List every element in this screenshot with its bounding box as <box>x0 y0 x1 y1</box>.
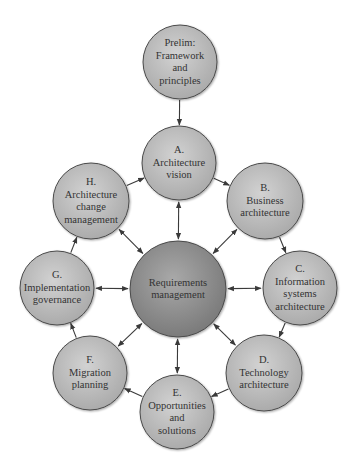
node-h-circle <box>53 163 129 239</box>
arrow-h-to-a <box>127 178 144 185</box>
arrow-e-to-f <box>125 389 143 397</box>
arrow-a-to-b <box>214 178 230 185</box>
arrow-c-to-d <box>279 323 285 337</box>
node-d-circle <box>226 335 302 411</box>
bidirectional-arrow-center-to-h <box>119 229 143 253</box>
node-b-circle <box>227 163 303 239</box>
togaf-adm-cycle-diagram <box>0 0 359 471</box>
node-c-circle <box>263 251 337 325</box>
bidirectional-arrow-center-to-b <box>213 229 237 253</box>
arrow-b-to-c <box>280 237 286 253</box>
node-f-circle <box>53 336 127 410</box>
node-e-circle <box>140 375 214 449</box>
node-a-circle <box>142 126 216 200</box>
bidirectional-arrow-center-to-d <box>214 324 236 345</box>
bidirectional-arrow-center-to-f <box>118 324 142 347</box>
node-prelim-circle <box>143 25 217 99</box>
node-center-circle <box>130 241 226 337</box>
arrow-g-to-h <box>71 237 77 252</box>
node-g-circle <box>20 251 94 325</box>
arrow-d-to-e <box>212 389 229 397</box>
arrow-f-to-g <box>71 323 76 337</box>
